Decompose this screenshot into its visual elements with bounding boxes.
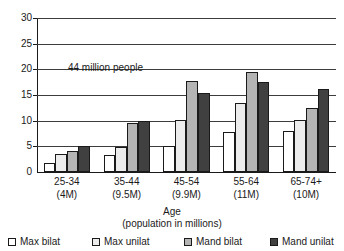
legend-item-mand-bilat[interactable]: Mand bilat	[184, 236, 242, 247]
bar-25-34-max-unilat	[55, 154, 67, 172]
x-tick-label-main: 25-34	[54, 176, 80, 187]
x-tick-65-74+: 65-74+(10M)	[276, 175, 336, 201]
bar-groups	[37, 18, 336, 172]
legend-item-max-bilat[interactable]: Max bilat	[8, 236, 60, 247]
bar-45-54-mand-bilat	[186, 81, 198, 172]
plot-area: 44 million people	[37, 18, 336, 172]
y-axis-tick-label-30: 30	[21, 13, 32, 23]
bar-group-25-34	[44, 18, 90, 172]
bar-65-74+-mand-bilat	[306, 108, 318, 172]
bar-35-44-mand-bilat	[127, 123, 139, 172]
x-tick-45-54: 45-54(9.9M)	[157, 175, 217, 201]
bar-chart: 051015202530 44 million people 25-34(4M)…	[0, 0, 344, 251]
y-axis-tick-label-20: 20	[21, 64, 32, 74]
legend-label: Max bilat	[20, 236, 60, 247]
bar-45-54-mand-unilat	[198, 93, 210, 172]
bar-55-64-max-unilat	[235, 103, 247, 172]
x-tick-label-sub: (9.5M)	[97, 188, 157, 201]
annotation-0: 44 million people	[68, 62, 143, 73]
bar-65-74+-max-bilat	[283, 131, 295, 172]
x-tick-25-34: 25-34(4M)	[37, 175, 97, 201]
x-tick-55-64: 55-64(11M)	[216, 175, 276, 201]
x-tick-label-main: 55-64	[234, 176, 260, 187]
bar-65-74+-max-unilat	[294, 120, 306, 172]
y-axis-tick-label-10: 10	[21, 116, 32, 126]
legend-swatch-icon	[184, 238, 192, 246]
legend-swatch-icon	[8, 238, 16, 246]
bar-65-74+-mand-unilat	[318, 89, 330, 172]
bar-25-34-max-bilat	[44, 163, 56, 172]
x-tick-label-sub: (11M)	[216, 188, 276, 201]
bar-25-34-mand-unilat	[78, 146, 90, 172]
x-tick-label-main: 45-54	[174, 176, 200, 187]
bar-35-44-mand-unilat	[138, 121, 150, 172]
legend-item-max-unilat[interactable]: Max unilat	[92, 236, 150, 247]
bar-group-55-64	[223, 18, 269, 172]
legend-item-mand-unilat[interactable]: Mand unilat	[270, 236, 334, 247]
y-axis-tick-label-0: 0	[26, 167, 32, 177]
legend-swatch-icon	[270, 238, 278, 246]
bar-55-64-mand-bilat	[246, 72, 258, 172]
y-axis-tick-label-15: 15	[21, 90, 32, 100]
x-tick-label-sub: (4M)	[37, 188, 97, 201]
bar-45-54-max-bilat	[163, 146, 175, 172]
legend-label: Mand bilat	[196, 236, 242, 247]
bar-group-45-54	[163, 18, 209, 172]
bar-35-44-max-bilat	[104, 155, 116, 172]
bar-55-64-max-bilat	[223, 132, 235, 172]
x-axis-title-main: Age	[163, 206, 181, 217]
legend: Max bilatMax unilatMand bilatMand unilat	[8, 236, 336, 250]
x-tick-label-sub: (9.9M)	[157, 188, 217, 201]
legend-label: Mand unilat	[282, 236, 334, 247]
x-axis-tick-labels: 25-34(4M)35-44(9.5M)45-54(9.9M)55-64(11M…	[37, 175, 336, 207]
x-axis-line	[37, 172, 336, 173]
y-axis-tick-label-5: 5	[26, 141, 32, 151]
bar-group-65-74+	[283, 18, 329, 172]
x-tick-label-sub: (10M)	[276, 188, 336, 201]
bar-25-34-mand-bilat	[67, 151, 79, 172]
legend-swatch-icon	[92, 238, 100, 246]
y-axis-labels: 051015202530	[0, 18, 32, 173]
y-axis-tick-label-25: 25	[21, 39, 32, 49]
x-tick-label-main: 35-44	[114, 176, 140, 187]
bar-35-44-max-unilat	[115, 147, 127, 172]
bar-55-64-mand-unilat	[258, 82, 270, 172]
x-axis-title: Age (population in millions)	[0, 206, 344, 230]
legend-label: Max unilat	[104, 236, 150, 247]
x-tick-35-44: 35-44(9.5M)	[97, 175, 157, 201]
x-tick-label-main: 65-74+	[290, 176, 321, 187]
bar-45-54-max-unilat	[175, 120, 187, 172]
x-axis-title-sub: (population in millions)	[0, 218, 344, 230]
bar-group-35-44	[104, 18, 150, 172]
